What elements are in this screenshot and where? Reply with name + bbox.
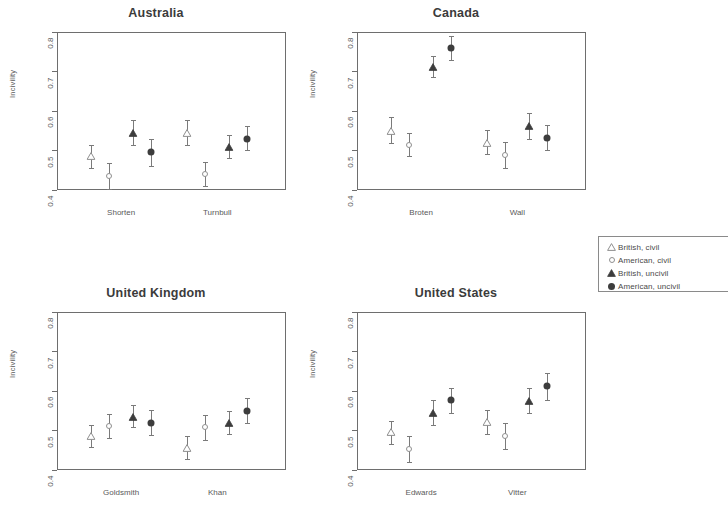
- error-bar-cap-lower: [485, 434, 490, 435]
- data-marker: [544, 134, 551, 141]
- data-marker: [183, 444, 192, 452]
- error-bar-cap-upper: [545, 125, 550, 126]
- panel-title: Canada: [306, 6, 606, 20]
- error-bar-cap-upper: [89, 425, 94, 426]
- error-bar-cap-lower: [185, 145, 190, 146]
- data-marker: [225, 419, 234, 427]
- error-bar-cap-lower: [227, 158, 232, 159]
- marker-circle-filled-icon: [448, 396, 455, 403]
- x-tick-label: Goldsmith: [103, 488, 139, 497]
- error-bar-cap-lower: [527, 139, 532, 140]
- data-marker: [87, 432, 96, 440]
- marker-triangle-open-icon: [183, 129, 192, 137]
- error-bar-cap-lower: [203, 186, 208, 187]
- y-tick-mark: [352, 391, 357, 392]
- y-tick-label: 0.6: [46, 117, 55, 128]
- error-bar-cap-lower: [131, 145, 136, 146]
- y-tick-label: 0.6: [46, 397, 55, 408]
- y-tick-label: 0.5: [346, 156, 355, 167]
- marker-triangle-filled-icon: [429, 63, 438, 71]
- data-marker: [483, 139, 492, 147]
- y-tick-mark: [52, 351, 57, 352]
- data-marker: [544, 383, 551, 390]
- error-bar-cap-lower: [149, 435, 154, 436]
- panel-united-states: United StatesIncivility0.40.50.60.70.8Ed…: [306, 282, 636, 519]
- data-marker: [202, 424, 208, 430]
- marker-triangle-open-icon: [387, 428, 396, 436]
- error-bar-cap-upper: [227, 411, 232, 412]
- y-tick-mark: [52, 71, 57, 72]
- y-tick-mark: [52, 430, 57, 431]
- y-tick-label: 0.7: [346, 77, 355, 88]
- marker-triangle-open-icon: [483, 418, 492, 426]
- data-marker: [87, 152, 96, 160]
- marker-circle-open-icon: [106, 173, 112, 179]
- data-marker: [406, 142, 412, 148]
- y-tick-label: 0.8: [46, 38, 55, 49]
- marker-circle-open-icon: [406, 446, 412, 452]
- plot-area: [357, 32, 586, 190]
- marker-triangle-open-icon: [483, 139, 492, 147]
- error-bar-cap-upper: [203, 162, 208, 163]
- marker-triangle-open-icon: [607, 243, 616, 251]
- y-tick-label: 0.6: [346, 397, 355, 408]
- legend-marker: [605, 269, 618, 277]
- marker-triangle-filled-icon: [525, 122, 534, 130]
- panel-canada: CanadaIncivility0.40.50.60.70.8BrotenWal…: [306, 2, 636, 252]
- marker-triangle-open-icon: [87, 152, 96, 160]
- data-marker: [106, 423, 112, 429]
- error-bar-cap-lower: [185, 459, 190, 460]
- error-bar-cap-lower: [107, 438, 112, 439]
- y-tick-label: 0.7: [46, 357, 55, 368]
- y-tick-mark: [352, 430, 357, 431]
- data-marker: [106, 173, 112, 179]
- data-marker: [502, 433, 508, 439]
- y-tick-label: 0.4: [346, 476, 355, 487]
- panel-title: United Kingdom: [6, 286, 306, 300]
- marker-triangle-filled-icon: [429, 409, 438, 417]
- error-bar-cap-upper: [107, 163, 112, 164]
- marker-circle-open-icon: [202, 171, 208, 177]
- marker-circle-open-icon: [406, 142, 412, 148]
- y-tick-label: 0.5: [46, 156, 55, 167]
- error-bar-cap-upper: [131, 405, 136, 406]
- marker-circle-open-icon: [502, 152, 508, 158]
- y-tick-mark: [352, 71, 357, 72]
- error-bar-cap-upper: [227, 135, 232, 136]
- error-bar-cap-lower: [449, 413, 454, 414]
- error-bar-cap-lower: [89, 447, 94, 448]
- y-tick-mark: [52, 32, 57, 33]
- y-tick-mark: [352, 351, 357, 352]
- error-bar-cap-lower: [131, 427, 136, 428]
- error-bar-cap-upper: [107, 414, 112, 415]
- x-tick-label: Broten: [409, 208, 433, 217]
- data-marker: [406, 446, 412, 452]
- marker-triangle-filled-icon: [225, 419, 234, 427]
- y-axis-ticks: 0.40.50.60.70.8: [30, 32, 57, 190]
- error-bar-cap-lower: [545, 150, 550, 151]
- error-bar-cap-lower: [89, 168, 94, 169]
- error-bar-cap-upper: [185, 120, 190, 121]
- marker-triangle-filled-icon: [525, 397, 534, 405]
- error-bar-cap-lower: [389, 143, 394, 144]
- marker-circle-filled-icon: [244, 135, 251, 142]
- y-tick-label: 0.5: [46, 436, 55, 447]
- error-bar-cap-lower: [203, 440, 208, 441]
- error-bar-cap-upper: [149, 139, 154, 140]
- data-marker: [148, 419, 155, 426]
- marker-circle-filled-icon: [544, 134, 551, 141]
- legend-item-british-civil: British, civil: [605, 241, 728, 253]
- marker-triangle-filled-icon: [129, 413, 138, 421]
- panel-title: Australia: [6, 6, 306, 20]
- marker-triangle-open-icon: [387, 127, 396, 135]
- marker-triangle-filled-icon: [225, 143, 234, 151]
- panel-united-kingdom: United KingdomIncivility0.40.50.60.70.8G…: [6, 282, 336, 519]
- error-bar-cap-upper: [407, 436, 412, 437]
- error-bar-cap-lower: [149, 166, 154, 167]
- error-bar-cap-upper: [527, 388, 532, 389]
- marker-circle-filled-icon: [608, 283, 615, 290]
- error-bar-cap-upper: [185, 436, 190, 437]
- y-tick-label: 0.4: [46, 196, 55, 207]
- panel-title: United States: [306, 286, 606, 300]
- error-bar-cap-lower: [485, 154, 490, 155]
